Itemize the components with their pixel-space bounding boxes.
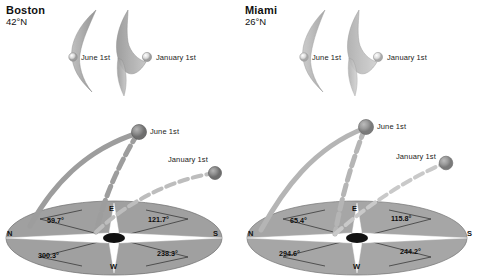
compass-direction-s-miami: S bbox=[467, 229, 472, 238]
miami-sunpath-graphic bbox=[239, 0, 477, 276]
compass-direction-s-boston: S bbox=[213, 229, 218, 238]
sunpath-label-january-boston: January 1st bbox=[168, 155, 208, 164]
azimuth-upper-left-boston: 59.7° bbox=[47, 216, 64, 225]
sun-marker-june-path-boston bbox=[132, 125, 147, 140]
azimuth-upper-right-miami: 115.8° bbox=[391, 214, 411, 223]
compass-direction-e-miami: E bbox=[352, 204, 357, 213]
compass-direction-w-boston: W bbox=[110, 262, 117, 271]
sun-marker-january-path-miami bbox=[439, 156, 453, 170]
azimuth-upper-left-miami: 65.4° bbox=[290, 216, 307, 225]
azimuth-upper-right-boston: 121.7° bbox=[148, 215, 169, 224]
panel-miami: Miami 26°N June 1st January 1st bbox=[239, 0, 477, 276]
panel-boston: Boston 42°N June 1st January 1st bbox=[0, 0, 238, 276]
compass-direction-w-miami: W bbox=[353, 262, 360, 271]
compass-center-miami bbox=[346, 233, 368, 243]
sunpath-label-january-miami: January 1st bbox=[396, 152, 436, 161]
azimuth-lower-right-boston: 238.3° bbox=[157, 249, 178, 258]
compass-center-boston bbox=[103, 233, 125, 243]
sun-marker-january-path-boston bbox=[209, 167, 222, 180]
compass-direction-n-boston: N bbox=[7, 229, 12, 238]
azimuth-lower-left-miami: 294.6° bbox=[279, 249, 300, 258]
sun-marker-june-path-miami bbox=[359, 120, 374, 135]
compass-direction-n-miami: N bbox=[248, 229, 253, 238]
sunpath-label-june-miami: June 1st bbox=[377, 122, 406, 131]
azimuth-lower-right-miami: 244.2° bbox=[400, 247, 421, 256]
compass-direction-e-boston: E bbox=[109, 204, 114, 213]
boston-sunpath-graphic bbox=[0, 0, 238, 276]
azimuth-lower-left-boston: 300.3° bbox=[38, 251, 59, 260]
sunpath-label-june-boston: June 1st bbox=[150, 127, 179, 136]
